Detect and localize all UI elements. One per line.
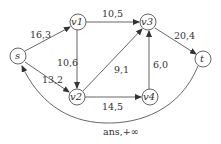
edge-label-s-v1: 16,3: [30, 29, 51, 40]
flow-network-diagram: 16,3 13,2 10,5 10,6 9,1 14,5 6,0 20,4 an…: [0, 0, 221, 144]
edge-label-v1-v3: 10,5: [102, 8, 123, 19]
node-v2: v2: [69, 89, 85, 105]
svg-text:v1: v1: [71, 16, 83, 27]
svg-text:s: s: [15, 50, 20, 61]
node-v3: v3: [140, 14, 156, 30]
edge-label-v2-v3: 9,1: [114, 64, 129, 75]
node-v4: v4: [142, 89, 158, 105]
node-s: s: [10, 48, 26, 64]
edge-label-v1-v2: 10,6: [57, 57, 78, 68]
edge-label-v2-v4: 14,5: [102, 101, 123, 112]
svg-text:v2: v2: [70, 91, 82, 102]
edge-v2-v3: [83, 29, 142, 91]
node-t: t: [195, 51, 211, 67]
svg-text:v3: v3: [141, 16, 153, 27]
node-v1: v1: [70, 14, 86, 30]
edge-label-s-v2: 13,2: [42, 74, 63, 85]
edge-label-v3-t: 20,4: [174, 30, 195, 41]
svg-text:v4: v4: [143, 91, 155, 102]
edge-label-t-s: ans,+∞: [103, 126, 139, 137]
edge-label-v4-v3: 6,0: [153, 59, 168, 70]
